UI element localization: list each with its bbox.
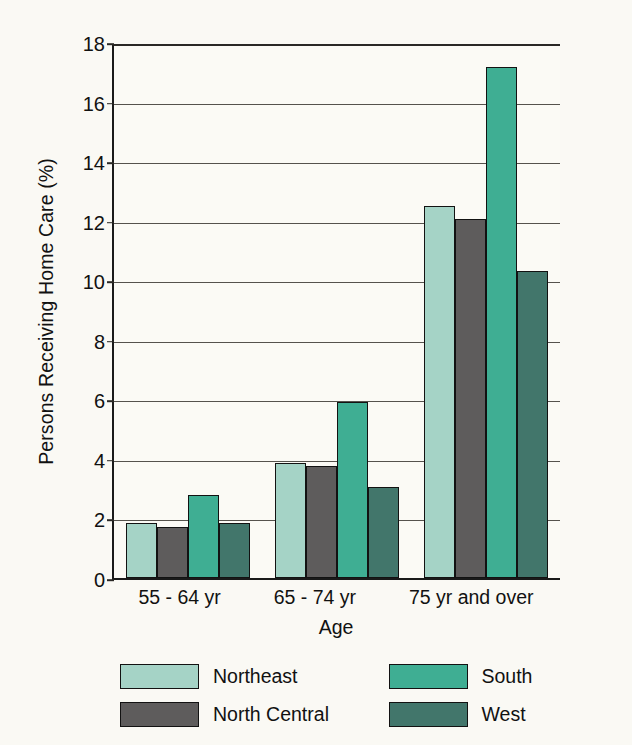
- bar[interactable]: [126, 523, 157, 578]
- x-axis-title: Age: [112, 616, 560, 639]
- y-axis-tick-label: 16: [83, 92, 105, 115]
- bar[interactable]: [455, 219, 486, 578]
- y-axis-tick-mark: [107, 520, 114, 522]
- bar[interactable]: [337, 402, 368, 578]
- bar[interactable]: [368, 487, 399, 578]
- y-axis-tick-label: 0: [94, 569, 105, 592]
- legend-swatch: [120, 664, 199, 689]
- x-axis-tick-label: 75 yr and over: [409, 586, 534, 609]
- y-axis-tick-label: 2: [94, 509, 105, 532]
- bar-groups: [114, 44, 560, 578]
- bar[interactable]: [306, 466, 337, 578]
- bar[interactable]: [424, 206, 455, 578]
- legend-label: South: [482, 665, 533, 688]
- legend-swatch: [389, 702, 468, 727]
- y-axis-tick-label: 8: [94, 330, 105, 353]
- y-axis-tick-label: 18: [83, 33, 105, 56]
- y-axis-tick-mark: [107, 401, 114, 403]
- legend-item[interactable]: Northeast: [120, 664, 337, 689]
- bar[interactable]: [486, 67, 517, 578]
- legend-label: North Central: [213, 703, 329, 726]
- bar[interactable]: [219, 523, 250, 578]
- y-axis-tick-mark: [107, 43, 114, 45]
- y-axis-tick-label: 6: [94, 390, 105, 413]
- y-axis-title: Persons Receiving Home Care (%): [35, 52, 58, 572]
- y-axis-tick-mark: [107, 162, 114, 164]
- x-axis-tick-label: 55 - 64 yr: [138, 586, 220, 609]
- y-axis-tick-mark: [107, 222, 114, 224]
- legend-swatch: [120, 702, 199, 727]
- legend-label: West: [482, 703, 526, 726]
- bar-group: [424, 44, 548, 578]
- bar[interactable]: [517, 271, 548, 578]
- y-axis-tick-label: 4: [94, 449, 105, 472]
- x-axis-tick-labels: 55 - 64 yr65 - 74 yr75 yr and over: [112, 586, 560, 609]
- legend-item[interactable]: North Central: [120, 702, 337, 727]
- bar[interactable]: [157, 527, 188, 578]
- y-axis-tick-mark: [107, 579, 114, 581]
- legend-swatch: [389, 664, 468, 689]
- chart-legend: NortheastSouthNorth CentralWest: [120, 657, 540, 733]
- y-axis-tick-mark: [107, 341, 114, 343]
- bar-group: [126, 44, 250, 578]
- plot-area: 024681012141618: [112, 44, 560, 580]
- legend-item[interactable]: West: [389, 702, 541, 727]
- y-axis-tick-label: 12: [83, 211, 105, 234]
- y-axis-tick-label: 10: [83, 271, 105, 294]
- y-axis-tick-mark: [107, 281, 114, 283]
- bar-group: [275, 44, 399, 578]
- y-axis-tick-mark: [107, 460, 114, 462]
- x-axis-tick-label: 65 - 74 yr: [274, 586, 356, 609]
- legend-label: Northeast: [213, 665, 298, 688]
- y-axis-tick-label: 14: [83, 152, 105, 175]
- legend-item[interactable]: South: [389, 664, 541, 689]
- y-axis-tick-mark: [107, 103, 114, 105]
- bar-chart-figure: Persons Receiving Home Care (%) 02468101…: [0, 0, 632, 745]
- bar[interactable]: [188, 495, 219, 578]
- bar[interactable]: [275, 463, 306, 578]
